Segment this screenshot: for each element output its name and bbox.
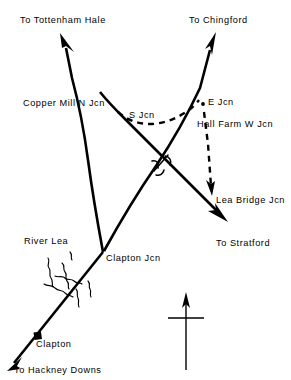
diagram-canvas bbox=[0, 0, 291, 380]
track-s-jcn-to-stratford bbox=[100, 92, 216, 210]
river-squiggle bbox=[44, 252, 91, 307]
track-copper-mill-curve bbox=[66, 48, 103, 252]
label-clapton-jcn: Clapton Jcn bbox=[106, 254, 161, 263]
e-jcn-dot bbox=[201, 102, 205, 106]
railway-diagram: To Tottenham Hale To Chingford Copper Mi… bbox=[0, 0, 291, 380]
river-strand-1 bbox=[48, 258, 53, 287]
label-river-lea: River Lea bbox=[24, 237, 68, 246]
label-hall-farm-w-jcn: Hall Farm W Jcn bbox=[197, 120, 273, 129]
line-clapton-to-tottenham-hale bbox=[60, 33, 103, 252]
main-line-hackney-clapton bbox=[7, 252, 103, 371]
label-lea-bridge-jcn: Lea Bridge Jcn bbox=[216, 196, 285, 205]
label-e-jcn: E Jcn bbox=[208, 98, 234, 107]
label-to-stratford: To Stratford bbox=[216, 239, 270, 248]
line-clapton-to-chingford bbox=[104, 32, 216, 251]
river-strand-2 bbox=[62, 263, 69, 289]
compass-north-arrow bbox=[168, 292, 204, 370]
river-strand-6 bbox=[88, 281, 91, 297]
label-s-jcn: S Jcn bbox=[129, 111, 155, 120]
label-to-chingford: To Chingford bbox=[189, 16, 248, 25]
label-to-tottenham-hale: To Tottenham Hale bbox=[20, 16, 106, 25]
bridge-tick-lower bbox=[156, 170, 164, 175]
river-strand-7 bbox=[70, 252, 72, 260]
label-copper-mill-n-jcn: Copper Mill N Jcn bbox=[23, 99, 105, 108]
river-strand-5 bbox=[76, 289, 79, 307]
label-to-hackney-downs: To Hackney Downs bbox=[14, 366, 101, 375]
label-clapton: Clapton bbox=[36, 340, 72, 349]
